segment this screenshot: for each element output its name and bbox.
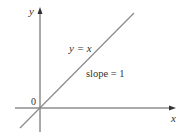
slope-label: slope = 1 [86, 68, 125, 79]
origin-label: 0 [31, 96, 36, 107]
y-axis-label: y [28, 5, 34, 17]
graph-canvas: y x 0 y = x slope = 1 [0, 0, 189, 139]
x-axis-label: x [170, 112, 176, 124]
x-axis-arrow-icon [169, 106, 176, 111]
y-axis-arrow-icon [38, 7, 43, 14]
equation-label: y = x [68, 42, 92, 54]
